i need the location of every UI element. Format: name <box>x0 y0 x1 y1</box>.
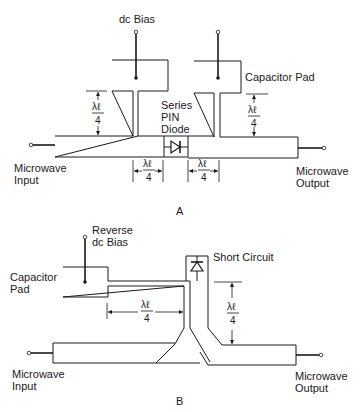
dc-bias-label: dc Bias <box>119 13 156 25</box>
microwave-output-label: Microwave <box>296 165 349 177</box>
series-pin-diode <box>164 136 188 157</box>
capacitor-pad-left <box>112 60 168 136</box>
stub-line-left <box>184 281 210 362</box>
quarter-wave-dim-left-vertical: λℓ 4 <box>86 91 107 135</box>
dc-bias-label-b: dc Bias <box>92 236 129 248</box>
svg-text:λℓ: λℓ <box>143 158 152 169</box>
transmission-line-left <box>55 136 164 157</box>
svg-text:λℓ: λℓ <box>227 301 236 312</box>
svg-text:λℓ: λℓ <box>141 299 150 310</box>
svg-text:4: 4 <box>230 315 236 326</box>
svg-text:4: 4 <box>144 313 150 324</box>
capacitor-pad-label: Capacitor Pad <box>245 71 315 83</box>
quarter-wave-dim-horizontal-b: λℓ 4 <box>107 299 183 324</box>
svg-text:λℓ: λℓ <box>248 104 257 115</box>
stub-line-right-outer <box>208 281 222 345</box>
transmission-line-right <box>188 136 298 158</box>
svg-text:λℓ: λℓ <box>198 158 207 169</box>
quarter-wave-dim-vertical-b: λℓ 4 <box>214 282 242 344</box>
short-circuit-label: Short Circuit <box>213 251 274 263</box>
microwave-output-label-2: Output <box>296 177 329 189</box>
output-connector <box>322 146 326 150</box>
input-connector-b <box>27 351 31 355</box>
diagram-a: dc Bias Capacitor Pad <box>14 13 349 217</box>
diagram-a-label: A <box>176 205 184 217</box>
right-bias-terminal <box>216 30 220 80</box>
diagram-b-label: B <box>176 395 183 407</box>
diagram-b: Reverse dc Bias Capacitor Pad Short Circ… <box>10 224 348 407</box>
svg-text:4: 4 <box>95 115 101 126</box>
microwave-input-label: Microwave <box>14 162 67 174</box>
input-line <box>53 343 200 363</box>
pin-label: PIN <box>161 111 179 123</box>
output-line <box>200 345 296 365</box>
diode-label: Diode <box>161 123 190 135</box>
reverse-bias-terminal <box>83 235 87 284</box>
microwave-input-label-2: Input <box>14 174 38 186</box>
pin-diode-bias-diagrams: dc Bias Capacitor Pad <box>0 0 364 412</box>
reverse-label: Reverse <box>92 224 133 236</box>
dc-bias-terminal <box>134 30 138 80</box>
microwave-input-label-b-2: Input <box>12 380 36 392</box>
output-connector-b <box>319 353 323 357</box>
microwave-input-label-b: Microwave <box>12 368 65 380</box>
stub-line-right <box>156 286 184 363</box>
microwave-output-label-b: Microwave <box>295 370 348 382</box>
input-connector <box>29 143 33 147</box>
quarter-wave-dim-bottom-left: λℓ 4 <box>133 158 163 183</box>
microwave-output-label-b-2: Output <box>295 382 328 394</box>
series-label: Series <box>161 99 193 111</box>
capacitor-pad-b <box>63 267 184 297</box>
svg-text:λℓ: λℓ <box>92 101 101 112</box>
capacitor-label-b: Capacitor <box>10 271 57 283</box>
quarter-wave-dim-right-vertical: λℓ 4 <box>246 94 268 136</box>
quarter-wave-dim-bottom-right: λℓ 4 <box>188 158 219 183</box>
short-circuit-diode <box>186 256 208 281</box>
pad-label-b: Pad <box>10 283 30 295</box>
svg-text:4: 4 <box>201 172 207 183</box>
svg-text:4: 4 <box>251 118 257 129</box>
svg-text:4: 4 <box>146 172 152 183</box>
